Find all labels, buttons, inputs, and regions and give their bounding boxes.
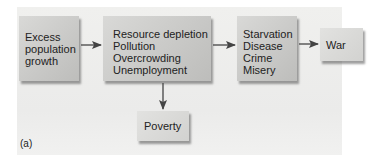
panel-label: (a) (20, 138, 32, 149)
diagram-canvas: Excess population growth Resource deplet… (0, 0, 374, 165)
arrow-icon (0, 0, 374, 165)
